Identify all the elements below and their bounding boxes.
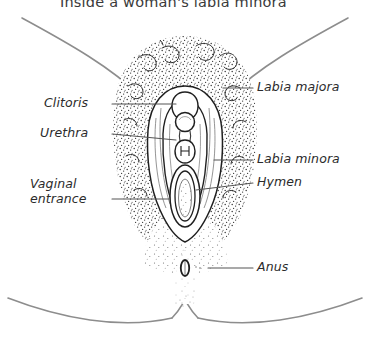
label-labia-minora: Labia minora [257,152,340,166]
diagram-canvas: Inside a woman's labia minora [0,0,370,342]
label-vaginal-entrance: Vaginal entrance [30,176,120,206]
label-hymen: Hymen [257,175,302,189]
label-urethra: Urethra [40,126,88,140]
label-vaginal-entrance-line2: entrance [30,191,87,206]
clitoris-glans [176,113,195,132]
label-anus: Anus [257,260,288,274]
urethra-opening [175,140,195,163]
label-clitoris: Clitoris [44,96,88,110]
label-vaginal-entrance-line1: Vaginal [30,176,77,191]
label-labia-majora: Labia majora [257,80,340,94]
vulva-anatomy-illustration [0,0,370,342]
vaginal-canal-shading [179,179,192,217]
